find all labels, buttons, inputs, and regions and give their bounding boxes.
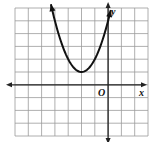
y-axis-label: y <box>110 6 116 17</box>
parabola-curve <box>51 4 111 72</box>
y-axis-arrow-down <box>106 138 111 142</box>
y-axis-arrow-up <box>106 2 111 8</box>
curve-arrows <box>50 4 113 17</box>
x-axis-label: x <box>138 87 144 98</box>
coordinate-plane: x y O <box>0 0 152 142</box>
x-axis-arrow-left <box>6 82 12 87</box>
origin-label: O <box>98 87 105 98</box>
